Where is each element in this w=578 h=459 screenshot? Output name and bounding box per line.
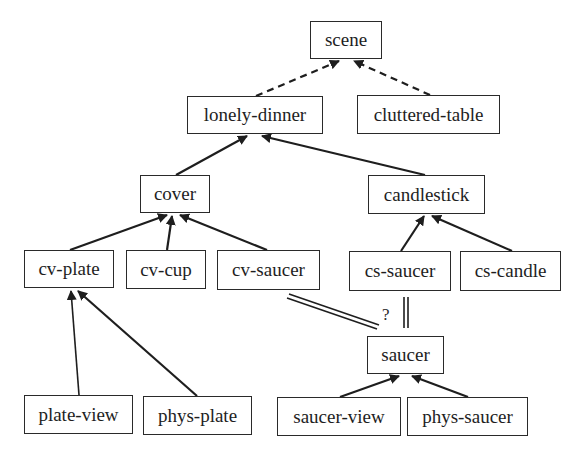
edge-cluttered-table-to-scene [354, 61, 430, 95]
node-cs-saucer: cs-saucer [349, 251, 451, 291]
edge-cv-plate-to-cover [70, 215, 167, 250]
node-plate-view: plate-view [24, 395, 133, 434]
node-saucer: saucer [367, 336, 444, 374]
edge-phys-saucer-to-saucer [412, 376, 468, 397]
node-cv-saucer: cv-saucer [217, 250, 320, 290]
edge-plate-view-to-cv-plate [71, 291, 79, 395]
node-candlestick: candlestick [368, 175, 485, 214]
edge-saucer-view-to-saucer [340, 376, 399, 397]
node-phys-saucer: phys-saucer [407, 397, 528, 436]
diagram-canvas: ? scene lonely-dinner cluttered-table co… [0, 0, 578, 459]
edges-layer [0, 0, 578, 459]
edge-cv-saucer-to-cover [180, 215, 267, 250]
node-saucer-view: saucer-view [277, 397, 401, 436]
edge-candlestick-to-lonely-dinner [262, 136, 425, 175]
edge-cv-cup-to-cover [167, 216, 172, 250]
node-cs-candle: cs-candle [460, 251, 561, 291]
edge-cs-saucer-to-candlestick [401, 216, 424, 251]
question-mark-annotation: ? [382, 305, 390, 325]
node-cluttered-table: cluttered-table [357, 95, 500, 134]
node-cv-plate: cv-plate [24, 250, 114, 288]
edge-cs-candle-to-candlestick [432, 216, 512, 251]
node-scene: scene [310, 21, 382, 59]
double-line-cv-saucer-to-saucer-b [287, 298, 377, 329]
edge-cover-to-lonely-dinner [176, 136, 247, 175]
edge-lonely-dinner-to-scene [256, 61, 339, 96]
node-lonely-dinner: lonely-dinner [187, 96, 323, 134]
double-line-cv-saucer-to-saucer-a [289, 294, 379, 325]
edge-phys-plate-to-cv-plate [78, 291, 197, 396]
node-cv-cup: cv-cup [126, 250, 206, 289]
node-cover: cover [140, 175, 210, 213]
node-phys-plate: phys-plate [143, 396, 252, 435]
